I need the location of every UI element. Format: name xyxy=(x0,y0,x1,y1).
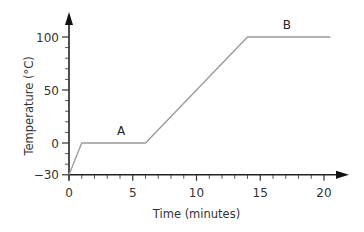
segment-label-a: A xyxy=(117,124,126,138)
minor-ticks xyxy=(65,48,337,179)
y-tick-label: 50 xyxy=(44,84,59,98)
x-tick-label: 15 xyxy=(253,186,268,200)
x-tick-label: 0 xyxy=(65,186,73,200)
x-axis-title: Time (minutes) xyxy=(152,207,240,221)
segment-label-b: B xyxy=(283,18,291,32)
x-tick-label: 10 xyxy=(189,186,204,200)
y-axis-title: Temperature (°C) xyxy=(22,56,36,156)
x-tick-label: 20 xyxy=(316,186,331,200)
heating-curve-chart: 05101520 −30050100 AB Time (minutes) Tem… xyxy=(0,0,364,232)
heating-curve-line xyxy=(69,37,330,175)
x-axis-arrow-icon xyxy=(336,171,349,179)
y-axis-arrow-icon xyxy=(65,12,73,25)
segment-labels: AB xyxy=(117,18,291,138)
y-tick-label: −30 xyxy=(34,168,59,182)
x-tick-labels: 05101520 xyxy=(65,186,331,200)
y-tick-labels: −30050100 xyxy=(34,31,59,183)
y-tick-label: 0 xyxy=(51,137,59,151)
y-tick-label: 100 xyxy=(36,31,59,45)
major-ticks xyxy=(62,37,324,181)
x-tick-label: 5 xyxy=(129,186,137,200)
